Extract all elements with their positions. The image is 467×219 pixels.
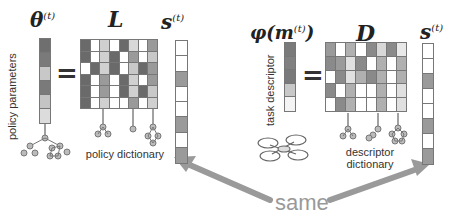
phi-symbol: φ(m	[250, 22, 294, 43]
matrix-cell	[377, 43, 386, 56]
vector-cell	[285, 70, 295, 84]
matrix-cell	[346, 43, 355, 56]
vector-cell	[176, 56, 187, 71]
s-left-symbol: s	[161, 10, 172, 34]
s-right-label: s(t)	[420, 20, 443, 44]
vector-cell	[176, 87, 187, 102]
matrix-cell	[336, 57, 345, 70]
s-right-symbol: s	[420, 20, 431, 44]
descriptor-dictionary-matrix-D	[325, 42, 407, 112]
vector-cell	[285, 57, 295, 71]
matrix-cell	[367, 57, 376, 70]
matrix-cell	[346, 98, 355, 111]
matrix-cell	[377, 84, 386, 97]
vector-cell	[176, 117, 187, 132]
matrix-cell	[397, 98, 406, 111]
phi-label: φ(m(t))	[250, 22, 314, 43]
matrix-cell	[336, 98, 345, 111]
s-left-vector	[175, 40, 188, 164]
vector-cell	[176, 133, 187, 148]
matrix-cell	[326, 84, 335, 97]
descriptor-dictionary-caption: descriptor dictionary	[335, 146, 405, 170]
vector-cell	[285, 43, 295, 57]
matrix-cell	[356, 57, 365, 70]
vector-cell	[285, 97, 295, 111]
matrix-cell	[397, 43, 406, 56]
s-right-vector	[422, 43, 434, 165]
matrix-cell	[387, 57, 396, 70]
s-left-superscript: (t)	[172, 12, 184, 23]
matrix-cell	[377, 98, 386, 111]
matrix-cell	[367, 43, 376, 56]
matrix-cell	[356, 71, 365, 84]
vector-cell	[176, 41, 187, 56]
vector-cell	[423, 59, 433, 74]
matrix-cell	[377, 57, 386, 70]
s-left-label: s(t)	[161, 10, 184, 34]
vector-cell	[423, 74, 433, 89]
matrix-cell	[336, 71, 345, 84]
policy-dictionary-caption: policy dictionary	[80, 148, 170, 160]
matrix-cell	[387, 43, 396, 56]
matrix-cell	[377, 71, 386, 84]
vector-cell	[423, 89, 433, 104]
vector-cell	[423, 44, 433, 59]
matrix-cell	[397, 84, 406, 97]
phi-close-paren: )	[306, 22, 315, 43]
s-right-superscript: (t)	[431, 22, 443, 33]
matrix-cell	[356, 43, 365, 56]
vector-cell	[423, 149, 433, 164]
phi-superscript: (t)	[294, 23, 306, 34]
matrix-cell	[346, 71, 355, 84]
matrix-cell	[397, 71, 406, 84]
matrix-cell	[346, 57, 355, 70]
matrix-cell	[326, 98, 335, 111]
matrix-cell	[367, 98, 376, 111]
descriptor-caption-line2: dictionary	[335, 158, 405, 170]
right-equals-sign: =	[302, 60, 324, 90]
matrix-cell	[356, 98, 365, 111]
task-descriptor-label: task descriptor	[264, 54, 276, 126]
matrix-cell	[387, 84, 396, 97]
matrix-cell	[367, 84, 376, 97]
matrix-cell	[326, 57, 335, 70]
matrix-cell	[387, 71, 396, 84]
matrix-cell	[367, 71, 376, 84]
vector-cell	[423, 134, 433, 149]
vector-cell	[176, 148, 187, 163]
quadrotor-icon	[258, 135, 308, 161]
phi-vector	[284, 42, 296, 112]
matrix-cell	[356, 84, 365, 97]
matrix-cell	[387, 98, 396, 111]
descriptor-caption-line1: descriptor	[335, 146, 405, 158]
vector-cell	[423, 104, 433, 119]
vector-cell	[423, 119, 433, 134]
matrix-cell	[326, 71, 335, 84]
vector-cell	[176, 102, 187, 117]
matrix-cell	[336, 84, 345, 97]
same-label: same	[275, 190, 329, 216]
matrix-cell	[336, 43, 345, 56]
vector-cell	[285, 84, 295, 98]
matrix-cell	[397, 57, 406, 70]
vector-cell	[176, 72, 187, 87]
matrix-cell	[346, 84, 355, 97]
matrix-cell	[326, 43, 335, 56]
